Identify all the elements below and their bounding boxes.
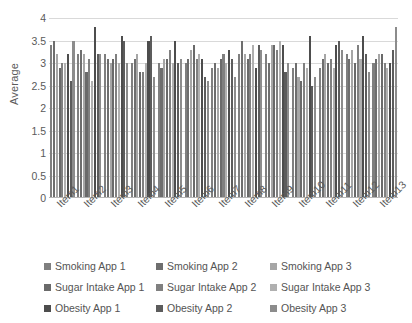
bar[interactable] (306, 68, 308, 199)
legend-item[interactable]: Smoking App 3 (270, 261, 352, 272)
bar[interactable] (284, 72, 286, 198)
bar[interactable] (381, 54, 383, 198)
bar[interactable] (225, 63, 227, 198)
bar[interactable] (309, 36, 311, 198)
bar[interactable] (136, 54, 138, 198)
bar[interactable] (142, 72, 144, 198)
bar[interactable] (351, 50, 353, 199)
bar[interactable] (196, 59, 198, 199)
bar[interactable] (268, 63, 270, 198)
legend-item[interactable]: Sugar Intake App 2 (156, 282, 270, 293)
bar[interactable] (287, 63, 289, 198)
bar[interactable] (220, 59, 222, 199)
bar[interactable] (392, 50, 394, 199)
bar[interactable] (85, 72, 87, 198)
bar[interactable] (145, 63, 147, 198)
bar[interactable] (153, 77, 155, 199)
bar[interactable] (214, 63, 216, 198)
bar[interactable] (258, 45, 260, 198)
bar[interactable] (271, 45, 273, 198)
bar[interactable] (386, 68, 388, 199)
bar[interactable] (70, 81, 72, 198)
bar[interactable] (115, 54, 117, 198)
bar[interactable] (244, 54, 246, 198)
bar[interactable] (131, 63, 133, 198)
bar[interactable] (150, 36, 152, 198)
legend-item[interactable]: Sugar Intake App 3 (270, 282, 370, 293)
bar[interactable] (249, 54, 251, 198)
bar[interactable] (185, 63, 187, 198)
bar[interactable] (104, 54, 106, 198)
bar[interactable] (234, 77, 236, 199)
legend-item[interactable]: Obesity App 2 (156, 303, 270, 314)
bar[interactable] (163, 59, 165, 199)
bar[interactable] (341, 50, 343, 199)
bar[interactable] (139, 72, 141, 198)
bar[interactable] (110, 63, 112, 198)
bar[interactable] (126, 63, 128, 198)
bar[interactable] (80, 50, 82, 199)
bar[interactable] (231, 59, 233, 199)
bar[interactable] (354, 63, 356, 198)
bar[interactable] (255, 68, 257, 199)
bar[interactable] (357, 45, 359, 198)
bar[interactable] (384, 63, 386, 198)
bar[interactable] (338, 41, 340, 199)
bar[interactable] (204, 77, 206, 199)
bar[interactable] (365, 54, 367, 198)
bar[interactable] (53, 41, 55, 199)
bar[interactable] (121, 36, 123, 198)
bar[interactable] (158, 63, 160, 198)
bar[interactable] (322, 59, 324, 199)
bar[interactable] (64, 63, 66, 198)
bar[interactable] (59, 68, 61, 199)
bar[interactable] (174, 41, 176, 199)
bar[interactable] (378, 54, 380, 198)
bar[interactable] (279, 41, 281, 199)
legend-item[interactable]: Smoking App 1 (44, 261, 156, 272)
bar[interactable] (72, 41, 74, 199)
bar[interactable] (300, 81, 302, 198)
bar[interactable] (88, 59, 90, 199)
bar[interactable] (282, 45, 284, 198)
bar[interactable] (260, 50, 262, 199)
bar[interactable] (201, 59, 203, 199)
bar[interactable] (134, 59, 136, 199)
bar[interactable] (91, 81, 93, 198)
bar[interactable] (241, 41, 243, 199)
bar[interactable] (166, 59, 168, 199)
bar[interactable] (368, 72, 370, 198)
bar[interactable] (67, 54, 69, 198)
bar[interactable] (359, 59, 361, 199)
bar[interactable] (97, 54, 99, 198)
bar[interactable] (395, 27, 397, 198)
bar[interactable] (123, 41, 125, 199)
bar[interactable] (222, 54, 224, 198)
legend-item[interactable]: Obesity App 1 (44, 303, 156, 314)
bar[interactable] (297, 77, 299, 199)
bar[interactable] (172, 63, 174, 198)
bar[interactable] (112, 59, 114, 199)
bar[interactable] (99, 54, 101, 198)
bar[interactable] (330, 59, 332, 199)
bar[interactable] (311, 86, 313, 199)
bar[interactable] (50, 45, 52, 198)
bar[interactable] (211, 68, 213, 199)
bar[interactable] (247, 59, 249, 199)
legend-item[interactable]: Obesity App 3 (270, 303, 346, 314)
bar[interactable] (362, 36, 364, 198)
bar[interactable] (160, 68, 162, 199)
bar[interactable] (375, 59, 377, 199)
bar[interactable] (335, 45, 337, 198)
bar[interactable] (193, 45, 195, 198)
bar[interactable] (147, 41, 149, 199)
bar[interactable] (77, 54, 79, 198)
bar[interactable] (276, 50, 278, 199)
bar[interactable] (83, 54, 85, 198)
bar[interactable] (169, 50, 171, 199)
bar[interactable] (303, 63, 305, 198)
bar[interactable] (327, 63, 329, 198)
bar[interactable] (324, 54, 326, 198)
bar[interactable] (94, 27, 96, 198)
bar[interactable] (333, 68, 335, 199)
